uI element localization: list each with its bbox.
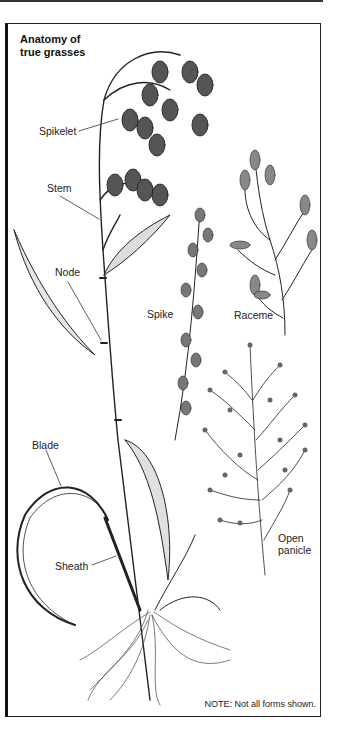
title-line-2: true grasses [20,46,85,59]
label-open-panicle: Open panicle [278,532,311,556]
raceme-plant [230,150,317,335]
main-stem [99,52,180,700]
label-stem: Stem [47,182,72,194]
left-leaf [14,230,95,355]
label-node: Node [55,266,80,278]
label-spikelet: Spikelet [39,125,76,137]
label-spike: Spike [147,308,173,320]
title-line-1: Anatomy of [20,33,85,46]
roots [80,610,230,705]
sheath [105,518,140,610]
spike-plant [175,208,213,440]
label-open-panicle-line-1: Open [278,532,311,544]
right-leaf [125,440,170,580]
upper-leaf [104,215,170,275]
figure-note: NOTE: Not all forms shown. [204,699,316,709]
label-open-panicle-line-2: panicle [278,544,311,556]
grass-illustration [0,0,340,748]
label-sheath: Sheath [55,560,88,572]
figure-title: Anatomy of true grasses [20,33,85,59]
label-blade: Blade [32,439,59,451]
blade-leaf [17,487,108,625]
label-raceme: Raceme [234,309,273,321]
spikelets [107,61,213,206]
